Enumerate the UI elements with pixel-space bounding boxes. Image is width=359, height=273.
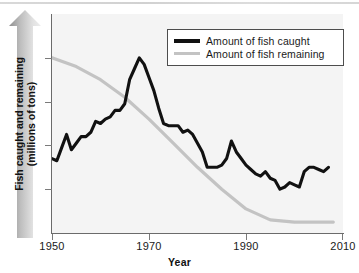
legend-swatch-remaining [174, 52, 200, 55]
series-line-amount-of-fish-remaining [52, 58, 333, 222]
legend-label-caught: Amount of fish caught [206, 35, 310, 47]
y-axis-line [51, 14, 52, 234]
legend-label-remaining: Amount of fish remaining [206, 48, 325, 60]
x-axis-tick-label: 2010 [330, 240, 355, 252]
fisheries-line-chart: Fish caught and remaining (millions of t… [0, 0, 359, 273]
x-axis-title: Year [0, 256, 359, 268]
x-axis-line [51, 233, 344, 234]
legend-swatch-caught [174, 39, 200, 43]
y-axis-tick [45, 58, 52, 59]
legend-item-amount-of-fish-remaining: Amount of fish remaining [174, 47, 337, 60]
top-divider-rule [0, 2, 359, 4]
y-axis-tick [45, 189, 52, 190]
legend-item-amount-of-fish-caught: Amount of fish caught [174, 34, 337, 47]
x-axis-tick-label: 1950 [39, 240, 64, 252]
x-axis-tick-label: 1970 [136, 240, 161, 252]
y-axis-tick [45, 145, 52, 146]
y-axis-arrow-graphic [8, 10, 42, 238]
y-axis-tick [45, 102, 52, 103]
x-axis-tick-label: 1990 [233, 240, 258, 252]
chart-legend: Amount of fish caught Amount of fish rem… [167, 29, 344, 66]
